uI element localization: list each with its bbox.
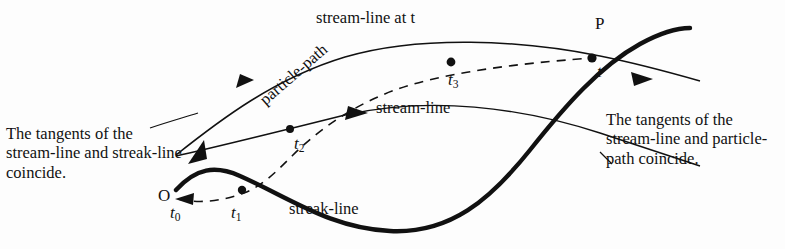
point-t1-dot [238,186,246,194]
point-label-t3-sub: 3 [453,78,459,90]
point-label-t: t [597,62,602,82]
point-label-origin: O [158,186,170,206]
annotation-left-note-text: The tangents of the stream-line and stre… [6,124,182,182]
annotation-right-note-text: The tangents of the stream-line and part… [606,110,767,168]
point-label-t1-sub: 1 [236,211,242,223]
label-stream-line-text: stream-line [376,98,450,117]
point-label-t0: t0 [170,203,180,224]
label-stream-line-at-t: stream-line at t [316,8,415,27]
point-label-t-text: t [597,62,602,81]
point-label-t3: t3 [448,70,458,91]
label-streak-line: streak-line [289,199,359,218]
label-streak-line-text: streak-line [289,199,359,218]
label-stream-line-at-t-text: stream-line at t [316,8,415,27]
point-P-dot [587,53,596,62]
label-stream-line: stream-line [376,98,450,117]
point-label-t1: t1 [231,203,241,224]
point-label-t0-sub: 0 [175,211,181,223]
point-label-p-text: P [595,14,604,33]
point-label-origin-text: O [158,186,170,205]
stream-line-at-t-arrow-left [236,74,254,88]
stream-line-at-t-arrow-right [631,72,653,86]
point-label-p: P [595,14,604,34]
point-t3-dot [447,58,456,67]
point-t2-dot [286,125,294,133]
point-label-t2-sub: 2 [299,142,305,154]
annotation-left-note: The tangents of the stream-line and stre… [6,124,186,182]
point-label-t2: t2 [294,134,304,155]
annotation-right-note: The tangents of the stream-line and part… [606,110,781,168]
fluid-flow-diagram: stream-line at t stream-line streak-line… [0,0,785,249]
